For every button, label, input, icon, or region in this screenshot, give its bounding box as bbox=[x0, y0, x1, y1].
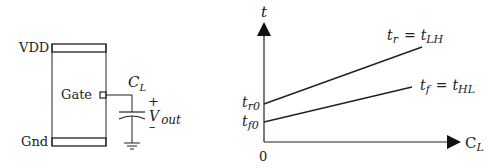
x-axis-label: CL bbox=[465, 134, 484, 154]
gate-output-terminal bbox=[100, 92, 106, 98]
diagram-canvas: VDD Gnd Gate CL + – Vout t 0 CL tr0 tf0 … bbox=[0, 0, 488, 168]
vdd-label: VDD bbox=[18, 40, 49, 55]
rise-time-line bbox=[264, 47, 422, 104]
origin-label: 0 bbox=[259, 149, 267, 164]
x-axis-arrow-icon bbox=[447, 135, 461, 149]
load-capacitance-label: CL bbox=[128, 73, 146, 93]
gnd-rail bbox=[52, 138, 106, 146]
fall-time-line bbox=[264, 87, 412, 122]
vdd-rail bbox=[52, 44, 106, 52]
gnd-label: Gnd bbox=[21, 134, 48, 149]
output-wire bbox=[106, 95, 132, 112]
y-axis-arrow-icon bbox=[257, 22, 271, 36]
tf0-intercept-label: tf0 bbox=[242, 113, 259, 132]
fall-time-label: tf=tHL bbox=[420, 77, 475, 96]
tr0-intercept-label: tr0 bbox=[242, 94, 260, 113]
rise-time-label: tr=tLH bbox=[387, 27, 444, 46]
y-axis-label: t bbox=[261, 3, 268, 21]
vout-plus-sign: + bbox=[148, 94, 159, 109]
gate-label: Gate bbox=[61, 87, 92, 102]
